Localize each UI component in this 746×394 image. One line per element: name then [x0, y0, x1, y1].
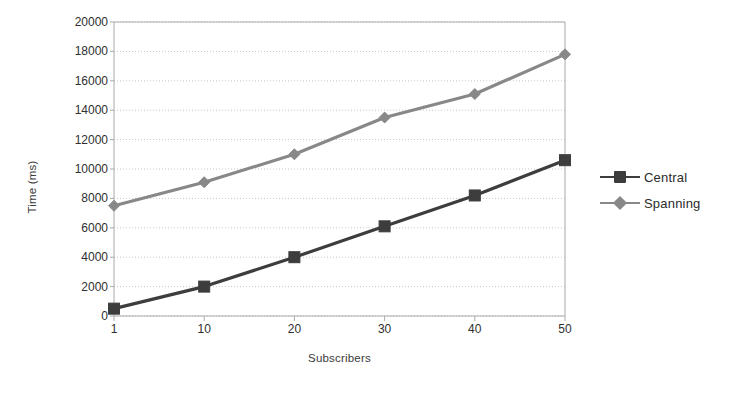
data-point-marker	[289, 252, 300, 263]
x-tick-label: 50	[558, 322, 571, 336]
legend-swatch-central	[600, 170, 640, 184]
data-point-marker	[469, 190, 480, 201]
data-point-marker	[109, 200, 120, 211]
data-point-marker	[199, 281, 210, 292]
x-axis-title: Subscribers	[114, 352, 565, 364]
legend-item-spanning[interactable]: Spanning	[600, 190, 740, 216]
data-point-marker	[379, 221, 390, 232]
data-point-marker	[379, 112, 390, 123]
x-tick-label: 10	[198, 322, 211, 336]
x-tick-label: 20	[288, 322, 301, 336]
legend-swatch-spanning	[600, 196, 640, 210]
data-point-marker	[469, 89, 480, 100]
data-point-marker	[199, 177, 210, 188]
data-point-marker	[289, 149, 300, 160]
diamond-marker-icon	[613, 196, 627, 210]
legend-item-central[interactable]: Central	[600, 164, 740, 190]
series-line-spanning	[114, 54, 565, 205]
chart-container: Time (ms) 020004000600080001000012000140…	[0, 0, 746, 394]
square-marker-icon	[614, 171, 626, 183]
chart-legend: Central Spanning	[600, 164, 740, 216]
data-point-marker	[560, 49, 571, 60]
data-point-marker	[109, 303, 120, 314]
x-tick-label: 1	[111, 322, 118, 336]
x-tick-label: 30	[378, 322, 391, 336]
data-point-marker	[560, 155, 571, 166]
legend-label-central: Central	[644, 170, 687, 185]
legend-label-spanning: Spanning	[644, 196, 701, 211]
x-tick-label: 40	[468, 322, 481, 336]
